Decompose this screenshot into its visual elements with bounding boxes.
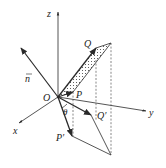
label-Q: Q xyxy=(84,38,92,49)
label-y: y xyxy=(148,107,154,118)
lower-edge-bottom xyxy=(72,136,111,155)
origin-point xyxy=(57,96,59,98)
label-x: x xyxy=(12,125,18,136)
label-z: z xyxy=(46,8,51,19)
vector-projection-diagram: z y x n O P Q P′ Q′ θ xyxy=(0,0,166,168)
label-P: P xyxy=(75,89,82,100)
label-O: O xyxy=(43,92,50,103)
label-P-prime: P′ xyxy=(55,132,65,143)
plane-edge-right xyxy=(73,43,111,92)
label-Q-prime: Q′ xyxy=(97,110,107,121)
label-theta: θ xyxy=(63,107,68,117)
label-n: n xyxy=(25,73,30,84)
lower-edge-right xyxy=(91,115,111,155)
shaded-plane-region xyxy=(58,43,111,97)
x-axis xyxy=(19,97,58,123)
